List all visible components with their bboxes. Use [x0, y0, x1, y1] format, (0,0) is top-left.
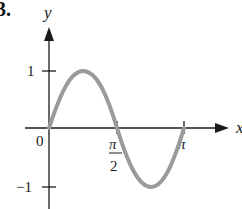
origin-label: 0: [36, 133, 44, 149]
x-tick-label-pi-over-2-den: 2: [110, 158, 118, 174]
x-tick-label-pi-over-2-num: π: [109, 136, 117, 152]
x-axis-arrow-icon: [215, 123, 229, 133]
sine-graph: 3. y x 1 −1 0 π 2 π: [0, 0, 242, 209]
y-tick-label-1: 1: [27, 63, 35, 79]
problem-number: 3.: [0, 0, 11, 20]
y-axis-label: y: [42, 3, 52, 22]
y-tick-label-neg1: −1: [16, 179, 32, 195]
x-axis-label: x: [235, 118, 242, 137]
y-axis-arrow-icon: [44, 27, 54, 41]
